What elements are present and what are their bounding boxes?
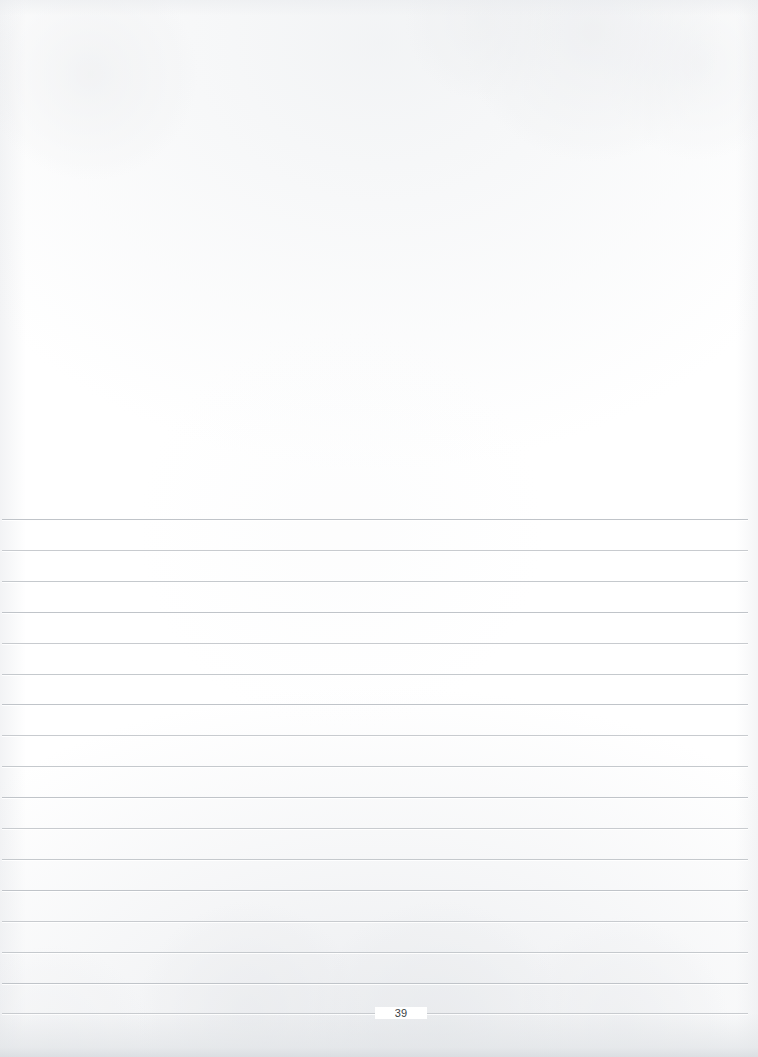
bottom-edge-shadow: [0, 1013, 758, 1057]
rule-line: [2, 828, 748, 829]
rule-line: [2, 921, 748, 922]
rule-line: [2, 704, 748, 705]
rule-line: [2, 797, 748, 798]
rule-line: [2, 735, 748, 736]
rule-line: [2, 674, 748, 675]
rule-line: [2, 643, 748, 644]
rule-line: [2, 859, 748, 860]
rule-line: [2, 766, 748, 767]
rule-line: [2, 550, 748, 551]
scanned-page: 39: [0, 0, 758, 1057]
rule-line: [2, 983, 748, 984]
blank-writing-area: [0, 0, 758, 519]
rule-line: [2, 519, 748, 520]
page-number: 39: [375, 1007, 427, 1019]
rule-line: [2, 612, 748, 613]
rule-line: [2, 952, 748, 953]
rule-line: [2, 581, 748, 582]
rule-line: [2, 890, 748, 891]
